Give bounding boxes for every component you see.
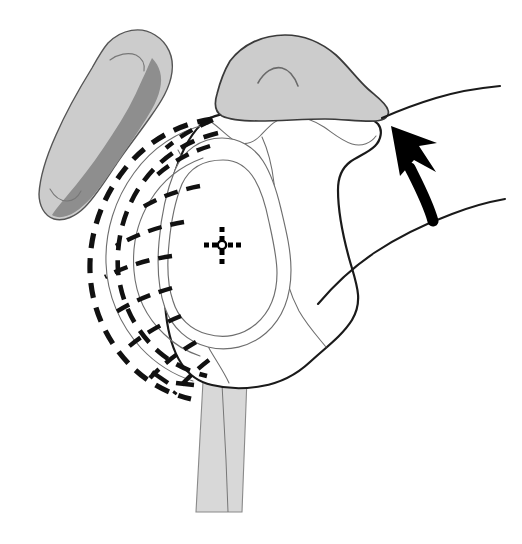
- crosshair-dot-down-3: [220, 259, 225, 264]
- crosshair-dot-right-3: [236, 243, 241, 248]
- junction-dash-2: [176, 383, 194, 385]
- anatomical-figure-container: Shoulder joint — scapula, glenoid and co…: [0, 0, 522, 544]
- crosshair-dot-up-3: [220, 227, 225, 232]
- scapular-spine-column: [196, 378, 247, 512]
- crosshair-dot-up-2: [220, 236, 225, 241]
- crosshair-dot-down-2: [220, 250, 225, 255]
- shoulder-anatomy-illustration: Shoulder joint — scapula, glenoid and co…: [0, 0, 522, 544]
- crosshair-dot-left-3: [204, 243, 209, 248]
- crosshair-dot-right-2: [228, 243, 233, 248]
- scapular-column-body: [196, 378, 247, 512]
- crosshair-dot-left-2: [212, 243, 217, 248]
